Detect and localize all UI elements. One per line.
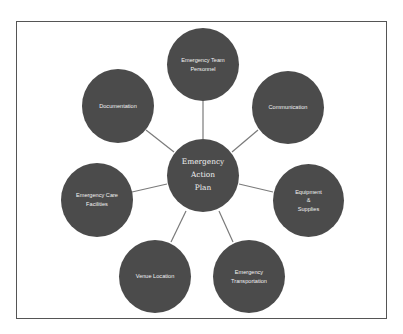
node-communication: Communication: [252, 71, 324, 144]
link-documentation: [146, 130, 174, 152]
node-emergency-care-facilities: Emergency Care Facilities: [61, 163, 133, 237]
link-venue: [171, 211, 186, 242]
node-label: Emergency Care Facilities: [76, 191, 118, 208]
node-label: Venue Location: [136, 272, 175, 281]
node-emergency-transportation: Emergency Transportation: [213, 240, 285, 313]
center-node-label: Emergency Action Plan: [182, 156, 225, 195]
node-equipment-supplies: Equipment & Supplies: [273, 164, 344, 237]
node-documentation: Documentation: [82, 69, 154, 143]
link-transportation: [219, 211, 233, 242]
node-emergency-team-personnel: Emergency Team Personnel: [167, 28, 239, 101]
node-label: Emergency Team Personnel: [181, 56, 224, 73]
node-label: Documentation: [99, 102, 137, 111]
center-node-emergency-action-plan: Emergency Action Plan: [167, 139, 239, 212]
node-label: Emergency Transportation: [231, 268, 267, 285]
node-venue-location: Venue Location: [119, 240, 191, 313]
link-care: [132, 184, 167, 192]
node-label: Equipment & Supplies: [295, 188, 322, 214]
link-communication: [232, 130, 258, 152]
node-label: Communication: [269, 103, 308, 112]
link-equipment: [239, 184, 273, 192]
